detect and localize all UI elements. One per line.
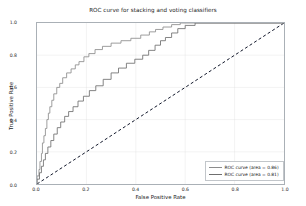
x-tick-label: 0.2 <box>71 187 101 192</box>
legend-line-swatch-icon <box>209 167 222 168</box>
chance-diagonal-line <box>37 23 284 184</box>
legend-item[interactable]: ROC curve (area = 0.81) <box>209 171 281 178</box>
x-tick-label: 0.6 <box>170 187 200 192</box>
x-tick-label: 0.8 <box>220 187 250 192</box>
chart-title: ROC curve for stacking and voting classi… <box>0 7 306 13</box>
curve-layer <box>37 23 284 184</box>
legend-label: ROC curve (area = 0.86) <box>225 165 279 170</box>
x-axis-label: False Positive Rate <box>36 194 285 200</box>
y-tick-label: 0.0 <box>0 183 17 188</box>
y-tick-label: 0.2 <box>0 150 17 155</box>
x-tick-label: 0.4 <box>121 187 151 192</box>
y-tick-label: 1.0 <box>0 20 17 25</box>
y-tick-label: 0.8 <box>0 52 17 57</box>
x-tick-label: 1.0 <box>270 187 300 192</box>
legend-line-swatch-icon <box>209 174 222 175</box>
y-axis-label: True Positive Rate <box>8 66 14 146</box>
roc-chart-figure: ROC curve for stacking and voting classi… <box>0 0 306 206</box>
legend[interactable]: ROC curve (area = 0.86)ROC curve (area =… <box>205 161 284 181</box>
legend-item[interactable]: ROC curve (area = 0.86) <box>209 164 281 171</box>
legend-label: ROC curve (area = 0.81) <box>225 172 279 177</box>
x-tick-label: 0.0 <box>21 187 51 192</box>
